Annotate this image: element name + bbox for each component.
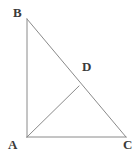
vertex-label-b: B <box>13 6 22 19</box>
vertex-label-c: C <box>123 138 132 151</box>
figure-background <box>0 0 138 154</box>
geometry-canvas <box>0 0 138 154</box>
vertex-label-a: A <box>8 138 17 151</box>
geometry-figure: B D A C <box>0 0 138 154</box>
vertex-label-d: D <box>82 60 91 73</box>
